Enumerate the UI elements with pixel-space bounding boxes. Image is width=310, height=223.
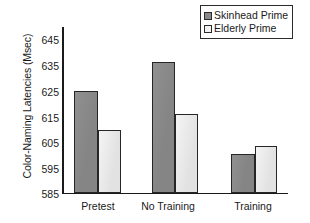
y-axis-line [62,27,64,194]
dark-swatch-icon [204,12,212,20]
legend-label-skinhead-prime: Skinhead Prime [214,10,288,21]
y-tick-label-645: 645 [33,35,59,45]
bar-chart: Color-Naming Latencies (Msec) 645 635 62… [0,0,310,223]
bar-training-elderly [255,146,277,193]
legend-label-elderly-prime: Elderly Prime [214,23,276,34]
bar-pretest-elderly [98,130,121,193]
y-tick-label-605: 605 [33,138,59,148]
y-tick-label-585: 585 [33,189,59,199]
legend-entry-skinhead-prime: Skinhead Prime [204,9,288,22]
bar-no-training-elderly [175,114,198,193]
y-tick-label-615: 615 [33,113,59,123]
y-tick-label-595: 595 [33,164,59,174]
x-tick-label-no-training: No Training [118,200,218,212]
chart-legend: Skinhead Prime Elderly Prime [200,5,293,39]
legend-entry-elderly-prime: Elderly Prime [204,22,288,35]
light-swatch-icon [204,25,212,33]
bar-no-training-skinhead [152,62,175,193]
y-axis-tick-labels: 645 635 625 615 605 595 585 [31,0,59,223]
bar-pretest-skinhead [74,91,98,193]
y-tick-label-635: 635 [33,61,59,71]
x-tick-label-training: Training [208,200,298,212]
y-tick-label-625: 625 [33,87,59,97]
bar-training-skinhead [231,154,255,193]
